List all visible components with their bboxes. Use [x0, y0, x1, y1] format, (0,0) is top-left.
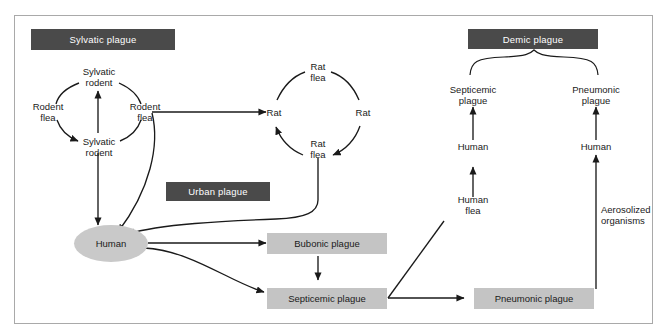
node-rat-right: Rat: [348, 107, 378, 118]
node-human-demic-left: Human: [452, 141, 494, 152]
connector-layer: [0, 0, 668, 334]
node-pneumonic-plague-demic: Pneumonic plague: [563, 84, 629, 106]
node-bubonic-plague-box: Bubonic plague: [267, 233, 387, 254]
node-septicemic-plague-demic: Septicemic plague: [440, 84, 506, 106]
node-pneumonic-plague-box: Pneumonic plague: [474, 288, 594, 309]
header-demic-plague: Demic plague: [468, 29, 598, 49]
node-human-demic-right: Human: [575, 141, 617, 152]
header-sylvatic-plague: Sylvatic plague: [31, 29, 175, 50]
node-septicemic-plague-box: Septicemic plague: [267, 288, 387, 309]
node-human-ellipse: Human: [74, 225, 148, 262]
node-sylvatic-rodent-bottom: Sylvatic rodent: [68, 136, 130, 158]
node-rat-flea-bottom: Rat flea: [297, 138, 339, 160]
label-aerosolized-organisms: Aerosolized organisms: [601, 204, 663, 226]
figure-canvas: Sylvatic plague Urban plague Demic plagu…: [0, 0, 668, 334]
node-human-flea: Human flea: [452, 194, 494, 216]
node-rodent-flea-left: Rodent flea: [25, 101, 71, 123]
edge-septicemic-to-humanflea-diag: [388, 221, 444, 298]
node-rat-flea-top: Rat flea: [297, 61, 339, 83]
edge-rodentflea-to-human: [118, 113, 155, 232]
node-rodent-flea-right: Rodent flea: [122, 101, 168, 123]
node-rat-left: Rat: [259, 107, 289, 118]
edge-human-to-septicemic: [144, 248, 264, 292]
header-urban-plague: Urban plague: [166, 182, 270, 201]
node-sylvatic-rodent-top: Sylvatic rodent: [68, 66, 130, 88]
brace-demic: [470, 50, 598, 75]
